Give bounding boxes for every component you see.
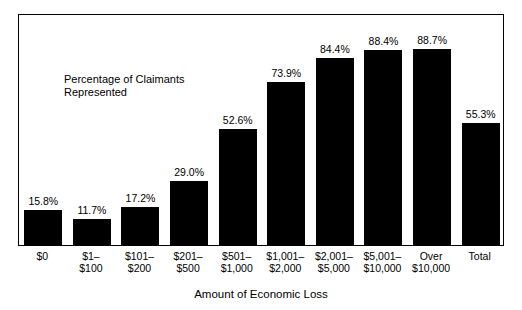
x-tick-label: $101– $200 [115, 250, 164, 274]
bar-slot: 17.2% [116, 15, 165, 245]
bars-layer: 15.8%11.7%17.2%29.0%52.6%73.9%84.4%88.4%… [19, 15, 503, 245]
bar-slot: 29.0% [165, 15, 214, 245]
x-tick-label: $1,001– $2,000 [261, 250, 310, 274]
x-tick-label: $0 [18, 250, 67, 262]
bar-value-label: 11.7% [77, 205, 106, 216]
x-axis-title: Amount of Economic Loss [0, 288, 522, 300]
bar[interactable] [462, 123, 500, 245]
bar-value-label: 15.8% [28, 196, 58, 207]
plot-area: 15.8%11.7%17.2%29.0%52.6%73.9%84.4%88.4%… [18, 14, 504, 246]
bar-value-label: 84.4% [320, 44, 350, 55]
bar[interactable] [413, 49, 451, 245]
bar-value-label: 52.6% [223, 115, 253, 126]
bar-chart: 15.8%11.7%17.2%29.0%52.6%73.9%84.4%88.4%… [0, 0, 522, 310]
x-tick-label: $501– $1,000 [212, 250, 261, 274]
bar[interactable] [170, 181, 208, 245]
x-axis-tick-labels: $0$1– $100$101– $200$201– $500$501– $1,0… [18, 250, 504, 284]
bar[interactable] [364, 50, 402, 245]
x-tick-label: $2,001– $5,000 [310, 250, 359, 274]
x-tick-label: $1– $100 [67, 250, 116, 274]
bar[interactable] [24, 210, 62, 245]
chart-annotation: Percentage of Claimants Represented [64, 73, 184, 99]
bar[interactable] [73, 219, 111, 245]
x-tick-label: Over $10,000 [407, 250, 456, 274]
bar[interactable] [267, 82, 305, 245]
bar-value-label: 88.7% [417, 35, 447, 46]
bar-slot: 52.6% [213, 15, 262, 245]
x-tick-label: $5,001– $10,000 [358, 250, 407, 274]
x-tick-label: Total [455, 250, 504, 262]
bar-value-label: 17.2% [126, 193, 156, 204]
x-tick-label: $201– $500 [164, 250, 213, 274]
bar-value-label: 73.9% [271, 68, 301, 79]
bar-slot: 55.3% [456, 15, 505, 245]
bar[interactable] [121, 207, 159, 245]
bar-slot: 11.7% [68, 15, 117, 245]
bar-slot: 88.4% [359, 15, 408, 245]
bar-slot: 73.9% [262, 15, 311, 245]
bar-value-label: 29.0% [174, 167, 204, 178]
bar-value-label: 55.3% [466, 109, 496, 120]
bar[interactable] [316, 58, 354, 245]
bar-value-label: 88.4% [369, 36, 399, 47]
bar-slot: 88.7% [408, 15, 457, 245]
bar-slot: 84.4% [311, 15, 360, 245]
bar[interactable] [219, 129, 257, 245]
bar-slot: 15.8% [19, 15, 68, 245]
